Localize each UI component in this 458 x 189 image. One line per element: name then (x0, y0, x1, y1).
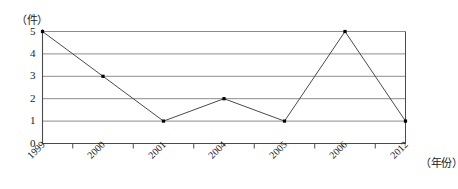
data-point-marker (222, 97, 225, 100)
line-chart: （件） （年份） 012345 199920002001200420052006… (0, 0, 458, 189)
y-tick-label: 3 (22, 69, 36, 81)
data-point-marker (41, 30, 44, 33)
data-point-marker (343, 30, 346, 33)
chart-canvas (0, 0, 458, 189)
y-tick-label: 1 (22, 114, 36, 126)
chart-axes (43, 30, 406, 144)
data-point-marker (101, 75, 104, 78)
y-tick-label: 2 (22, 92, 36, 104)
gridlines (43, 32, 406, 122)
y-tick-label: 5 (22, 25, 36, 37)
data-point-marker (283, 120, 286, 123)
data-point-marker (162, 120, 165, 123)
x-axis-unit-label: （年份） (420, 154, 458, 170)
data-point-marker (404, 120, 407, 123)
y-tick-label: 4 (22, 47, 36, 59)
